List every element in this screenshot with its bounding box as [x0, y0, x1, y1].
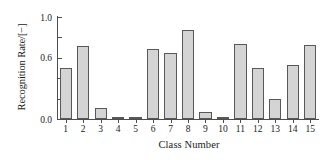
bar	[199, 112, 211, 119]
plot-area: 0.00.61.0 123456789101112131415	[57, 16, 319, 120]
bar	[234, 44, 246, 119]
x-tick-label: 4	[116, 124, 121, 134]
x-tick-mark	[293, 120, 294, 123]
x-tick-label: 3	[98, 124, 103, 134]
x-tick-label: 9	[203, 124, 208, 134]
bar	[95, 108, 107, 119]
bar	[77, 46, 89, 119]
x-tick-mark	[153, 120, 154, 123]
x-tick-mark	[66, 120, 67, 123]
x-axis-title: Class Number	[57, 139, 321, 150]
bar	[182, 30, 194, 119]
bar	[164, 53, 176, 119]
y-tick-label: 0.0	[40, 115, 52, 125]
y-axis-title: Recognition Rate/[−]	[10, 2, 32, 132]
bar-chart-figure: Recognition Rate/[−] 0.00.61.0 123456789…	[0, 0, 324, 160]
x-tick-mark	[205, 120, 206, 123]
x-tick-label: 14	[288, 124, 298, 134]
x-tick-mark	[258, 120, 259, 123]
bar	[129, 117, 141, 119]
x-tick-mark	[83, 120, 84, 123]
bar	[287, 65, 299, 119]
x-tick-label: 7	[168, 124, 173, 134]
x-tick-label: 6	[151, 124, 156, 134]
x-tick-label: 1	[63, 124, 68, 134]
x-tick-mark	[188, 120, 189, 123]
bar	[252, 68, 264, 119]
y-tick-label: 1.0	[40, 13, 52, 23]
x-tick-mark	[310, 120, 311, 123]
x-tick-mark	[240, 120, 241, 123]
x-tick-mark	[118, 120, 119, 123]
bar-series	[57, 16, 319, 120]
x-tick-mark	[171, 120, 172, 123]
x-tick-label: 11	[236, 124, 245, 134]
bar	[112, 117, 124, 119]
x-tick-label: 13	[271, 124, 281, 134]
bar	[147, 49, 159, 119]
x-tick-label: 8	[186, 124, 191, 134]
x-tick-mark	[101, 120, 102, 123]
x-tick-mark	[275, 120, 276, 123]
x-tick-mark	[136, 120, 137, 123]
x-tick-label: 12	[253, 124, 263, 134]
x-tick-label: 2	[81, 124, 86, 134]
bar	[60, 68, 72, 119]
bar	[269, 99, 281, 119]
bar	[304, 45, 316, 119]
y-tick-label: 0.6	[40, 53, 52, 63]
x-tick-label: 15	[306, 124, 316, 134]
x-tick-label: 5	[133, 124, 138, 134]
x-tick-label: 10	[218, 124, 228, 134]
bar	[217, 117, 229, 119]
x-tick-mark	[223, 120, 224, 123]
